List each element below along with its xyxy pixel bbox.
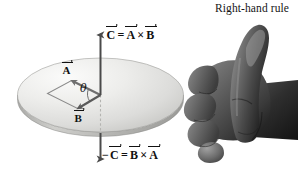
figure-root: C=A×B −C=B×A A B θ Right-hand rule [0,0,298,174]
right-hand-photo [0,0,298,174]
hand-silhouette [184,25,298,163]
